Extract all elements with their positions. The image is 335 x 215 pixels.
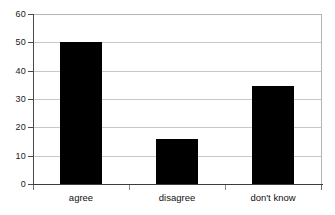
y-tick-label: 0 <box>0 180 26 189</box>
y-tick-label: 60 <box>0 10 26 19</box>
y-tick-label: 10 <box>0 152 26 161</box>
y-tick-label: 50 <box>0 38 26 47</box>
x-tick-mark <box>33 185 34 190</box>
x-tick-mark <box>129 185 130 190</box>
y-axis-labels: 60 50 40 30 20 10 0 <box>0 0 26 215</box>
plot-frame-right <box>321 14 322 184</box>
bar-dont-know <box>252 86 294 184</box>
x-tick-label-dont-know: don't know <box>225 192 321 203</box>
x-tick-mark <box>321 185 322 190</box>
bar-disagree <box>156 139 198 184</box>
gridline-60 <box>33 14 322 15</box>
bar-chart: 60 50 40 30 20 10 0 agree disagree don't… <box>0 0 335 215</box>
y-tick-label: 30 <box>0 95 26 104</box>
y-axis-line <box>33 14 34 185</box>
x-tick-label-agree: agree <box>33 192 129 203</box>
y-tick-label: 40 <box>0 67 26 76</box>
y-tick-label: 20 <box>0 123 26 132</box>
x-axis-line <box>33 184 323 185</box>
x-tick-label-disagree: disagree <box>129 192 225 203</box>
plot-area <box>33 14 322 184</box>
bar-agree <box>60 42 102 184</box>
x-tick-mark <box>225 185 226 190</box>
